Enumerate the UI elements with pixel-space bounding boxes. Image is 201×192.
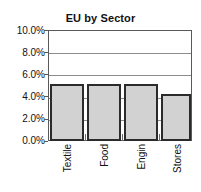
bar-food[interactable]	[87, 84, 121, 141]
x-axis-tick-mark-2	[122, 134, 123, 141]
x-axis-labels: Textile Food Engin Stores	[48, 144, 192, 192]
bar-stores[interactable]	[161, 94, 191, 141]
bar-chart: EU by Sector 10.0% 8.0% 6.0% 4.0% 2.0% 0…	[0, 0, 201, 192]
y-axis-tick-mark-0	[44, 141, 48, 142]
x-axis-label-food: Food	[100, 144, 110, 167]
y-axis-tick-label-0: 0.0%	[1, 136, 45, 146]
chart-title: EU by Sector	[0, 12, 201, 24]
bars-layer	[48, 30, 192, 141]
x-axis-tick-mark-3	[159, 134, 160, 141]
y-axis-tick-label-6: 6.0%	[1, 70, 45, 80]
y-axis-tick-label-4: 4.0%	[1, 92, 45, 102]
x-axis-label-engin: Engin	[137, 144, 147, 170]
x-axis-label-stores: Stores	[173, 144, 183, 173]
bar-engin[interactable]	[124, 84, 158, 141]
y-axis-tick-label-8: 8.0%	[1, 48, 45, 58]
y-axis-tick-label-10: 10.0%	[1, 26, 45, 36]
x-axis-tick-mark-1	[85, 134, 86, 141]
bar-textile[interactable]	[50, 84, 84, 141]
y-axis-tick-label-2: 2.0%	[1, 114, 45, 124]
x-axis-label-textile: Textile	[63, 144, 73, 172]
